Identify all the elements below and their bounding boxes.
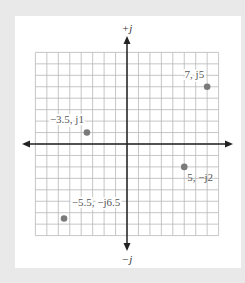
arrow-right-icon — [225, 141, 233, 148]
data-point — [84, 129, 91, 136]
point-label: 7, j5 — [185, 68, 205, 80]
data-point — [204, 83, 211, 90]
positive-imag-label: +j — [122, 22, 132, 34]
point-label: 5, −j2 — [187, 171, 213, 183]
negative-imag-label: −j — [122, 253, 132, 265]
complex-plane: +j −j 7, j5−3.5, j15, −j2−5.5, −j6.5 — [0, 0, 245, 283]
arrow-down-icon — [124, 243, 131, 251]
arrow-up-icon — [124, 36, 131, 44]
point-label: −3.5, j1 — [50, 113, 84, 125]
arrow-left-icon — [22, 141, 30, 148]
point-label: −5.5, −j6.5 — [72, 196, 121, 208]
data-point — [61, 215, 68, 222]
data-point — [181, 164, 188, 171]
